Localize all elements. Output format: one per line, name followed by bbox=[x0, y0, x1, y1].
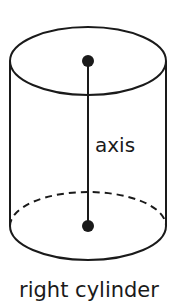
bottom-center-dot bbox=[82, 220, 94, 232]
axis-label: axis bbox=[95, 133, 135, 157]
caption: right cylinder bbox=[19, 278, 159, 302]
cylinder-diagram: axis right cylinder bbox=[0, 0, 178, 306]
top-center-dot bbox=[82, 55, 94, 67]
